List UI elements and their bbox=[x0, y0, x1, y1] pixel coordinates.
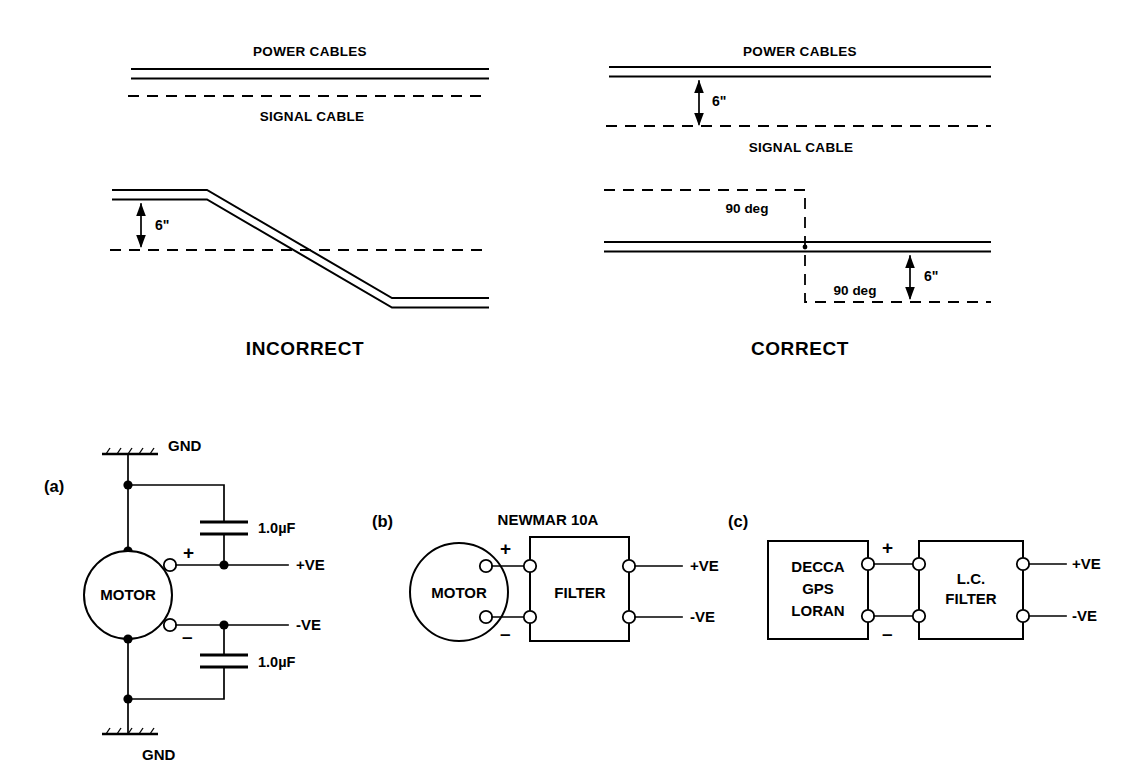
motor-minus-terminal-b bbox=[480, 611, 492, 623]
source-minus-terminal-c bbox=[862, 610, 874, 622]
panel-correct-lower: 90 deg 90 deg 6" CORRECT bbox=[604, 190, 991, 359]
arrowhead-down-left bbox=[136, 235, 146, 248]
node-motor-bottom-a bbox=[123, 634, 132, 643]
angle-label-bottom: 90 deg bbox=[834, 283, 877, 298]
minus-sign-a: – bbox=[182, 626, 193, 647]
capacitor-top-value-a: 1.0µF bbox=[258, 520, 296, 536]
motor-minus-terminal-a bbox=[164, 619, 176, 631]
circuit-a-tag: (a) bbox=[44, 477, 64, 495]
lc-input-minus-c bbox=[913, 610, 925, 622]
crossing-node bbox=[803, 245, 808, 250]
ground-label-top-a: GND bbox=[168, 437, 202, 454]
source-line-1-c: DECCA bbox=[791, 558, 845, 575]
filter-label-b: FILTER bbox=[554, 584, 606, 601]
minus-sign-c: – bbox=[882, 623, 893, 644]
dimension-arrow-right-upper bbox=[694, 80, 704, 126]
circuit-a: (a) GND MOTOR bbox=[44, 437, 325, 763]
minus-ve-label-b: -VE bbox=[690, 608, 715, 625]
plus-ve-label-a: +VE bbox=[296, 556, 325, 573]
signal-cable-right-angle bbox=[604, 190, 991, 302]
lc-filter-line-1-c: L.C. bbox=[957, 570, 985, 587]
capacitor-bottom-value-a: 1.0µF bbox=[258, 654, 296, 670]
filter-output-minus-b bbox=[623, 611, 635, 623]
motor-plus-terminal-b bbox=[480, 560, 492, 572]
panel-incorrect-lower: 6" INCORRECT bbox=[110, 190, 489, 359]
dimension-arrow-left bbox=[136, 203, 146, 248]
dimension-label-right-upper: 6" bbox=[712, 93, 726, 109]
arrowhead-up-right-upper bbox=[694, 80, 704, 93]
signal-cable-label-right-upper: SIGNAL CABLE bbox=[749, 140, 854, 155]
cap-top-branch-a bbox=[128, 485, 224, 522]
technical-diagram: POWER CABLES SIGNAL CABLE 6" INCORRECT bbox=[0, 0, 1129, 775]
lc-output-minus-c bbox=[1017, 610, 1029, 622]
circuit-c: (c) DECCA GPS LORAN + – L.C. FILTER bbox=[728, 512, 1101, 644]
capacitor-top-a bbox=[200, 522, 248, 565]
circuit-b-tag: (b) bbox=[372, 512, 393, 530]
verdict-label-correct: CORRECT bbox=[751, 338, 849, 359]
arrowhead-up-right-lower bbox=[905, 255, 915, 268]
ground-symbol-top-a bbox=[102, 448, 158, 454]
power-cable-sloped-b bbox=[112, 200, 489, 308]
dimension-label-left: 6" bbox=[155, 217, 169, 233]
lc-filter-line-2-c: FILTER bbox=[945, 590, 997, 607]
ground-symbol-bottom-a bbox=[102, 728, 158, 734]
filter-input-plus-b bbox=[524, 560, 536, 572]
plus-sign-a: + bbox=[183, 542, 194, 563]
filter-output-plus-b bbox=[623, 560, 635, 572]
capacitor-bottom-a bbox=[200, 625, 248, 667]
plus-ve-label-c: +VE bbox=[1072, 555, 1101, 572]
cap-bottom-branch-a bbox=[128, 667, 224, 699]
motor-label-b: MOTOR bbox=[431, 584, 487, 601]
panel-correct-upper: POWER CABLES 6" SIGNAL CABLE bbox=[606, 44, 991, 155]
minus-ve-label-a: -VE bbox=[296, 616, 321, 633]
panel-incorrect-upper: POWER CABLES SIGNAL CABLE bbox=[128, 44, 489, 124]
circuit-b: (b) NEWMAR 10A MOTOR + – FILTER bbox=[372, 511, 719, 644]
verdict-label-incorrect: INCORRECT bbox=[246, 338, 364, 359]
source-line-2-c: GPS bbox=[802, 580, 834, 597]
plus-sign-c: + bbox=[882, 537, 893, 558]
ground-label-bottom-a: GND bbox=[142, 746, 176, 763]
arrowhead-down-right-upper bbox=[694, 113, 704, 126]
figure-page: POWER CABLES SIGNAL CABLE 6" INCORRECT bbox=[0, 0, 1129, 775]
dimension-label-right-lower: 6" bbox=[924, 268, 938, 284]
angle-label-top: 90 deg bbox=[726, 201, 769, 216]
circuit-c-tag: (c) bbox=[728, 512, 748, 530]
filter-input-minus-b bbox=[524, 611, 536, 623]
source-line-3-c: LORAN bbox=[791, 602, 844, 619]
signal-cable-label-left-upper: SIGNAL CABLE bbox=[260, 109, 365, 124]
motor-label-a: MOTOR bbox=[100, 586, 156, 603]
motor-plus-terminal-a bbox=[164, 559, 176, 571]
power-cable-sloped-a bbox=[112, 190, 489, 298]
minus-ve-label-c: -VE bbox=[1072, 607, 1097, 624]
source-plus-terminal-c bbox=[862, 558, 874, 570]
plus-ve-label-b: +VE bbox=[690, 557, 719, 574]
plus-sign-b: + bbox=[500, 538, 511, 559]
power-cables-label-right-upper: POWER CABLES bbox=[743, 44, 857, 59]
lc-input-plus-c bbox=[913, 558, 925, 570]
arrowhead-down-right-lower bbox=[905, 287, 915, 300]
filter-title-b: NEWMAR 10A bbox=[498, 511, 599, 528]
arrowhead-up-left bbox=[136, 203, 146, 216]
dimension-arrow-right-lower bbox=[905, 255, 915, 300]
minus-sign-b: – bbox=[500, 623, 511, 644]
lc-output-plus-c bbox=[1017, 558, 1029, 570]
power-cables-label-left-upper: POWER CABLES bbox=[253, 44, 367, 59]
